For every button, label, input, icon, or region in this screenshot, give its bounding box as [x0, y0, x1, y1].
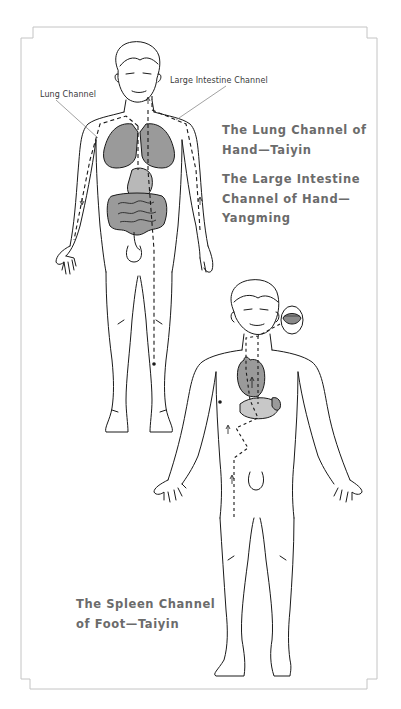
channel-paths-figure-2 — [218, 324, 280, 520]
legs-outline-2 — [215, 518, 294, 676]
arrow-abdomen — [226, 425, 230, 434]
spleen-channel-path — [234, 324, 280, 520]
knees — [118, 320, 162, 324]
head-outline — [116, 42, 160, 103]
spleen — [272, 398, 281, 411]
label-large-intestine-channel: Large Intestine Channel — [170, 76, 268, 85]
eyes-2 — [244, 309, 268, 310]
hair-line-2 — [234, 295, 278, 302]
caption-line: Channel of Hand— — [222, 190, 360, 210]
organs-figure-1 — [104, 124, 175, 250]
arm-right-inner — [182, 140, 200, 258]
hair-line — [120, 58, 158, 66]
caption-line: The Spleen Channel — [76, 595, 215, 615]
caption-line: The Lung Channel of — [222, 121, 367, 141]
head-outline-2 — [231, 280, 279, 335]
caption-line: Yangming — [222, 209, 360, 229]
leader-lung-channel — [56, 100, 98, 138]
hand-left — [56, 246, 76, 274]
legs-outline — [106, 272, 173, 432]
arm-left-2 — [182, 372, 216, 484]
caption-large-intestine-channel: The Large Intestine Channel of Hand— Yan… — [222, 170, 360, 229]
ear-left-2 — [231, 312, 234, 322]
tongue-inset — [281, 306, 303, 334]
caption-line: The Large Intestine — [222, 170, 360, 190]
knees-2 — [228, 556, 286, 560]
caption-lung-channel: The Lung Channel of Hand—Taiyin — [222, 121, 367, 160]
ankle-left — [112, 410, 166, 412]
lung-left — [104, 124, 139, 168]
hand-right — [200, 246, 213, 272]
ear-right — [158, 74, 161, 82]
arrow-leg — [230, 475, 234, 484]
caption-spleen-channel: The Spleen Channel of Foot—Taiyin — [76, 595, 215, 634]
mouth-2 — [250, 324, 264, 326]
organs-figure-2 — [237, 306, 303, 419]
meridian-diagram-page: Lung Channel Large Intestine Channel The… — [0, 0, 401, 709]
tongue-inset-mouth — [283, 314, 301, 325]
label-lung-channel: Lung Channel — [40, 90, 96, 99]
caption-line: of Foot—Taiyin — [76, 615, 215, 635]
eyes — [126, 73, 151, 74]
mouth — [132, 91, 146, 93]
arm-right-2 — [298, 372, 334, 484]
arm-left-inner — [66, 140, 96, 256]
lung-right — [140, 124, 175, 168]
genitals-2 — [248, 472, 263, 490]
large-intestine — [107, 193, 167, 235]
arrow-li-neck — [146, 97, 150, 104]
arrow-lung-arm — [80, 198, 84, 205]
hand-right-2 — [334, 480, 362, 502]
caption-line: Hand—Taiyin — [222, 141, 367, 161]
hand-left-2 — [154, 480, 186, 502]
heart — [237, 357, 264, 397]
genitals — [126, 246, 141, 262]
channel-endpoint — [152, 362, 156, 366]
leader-large-intestine-channel — [176, 86, 226, 120]
spleen-channel-start — [218, 400, 222, 404]
